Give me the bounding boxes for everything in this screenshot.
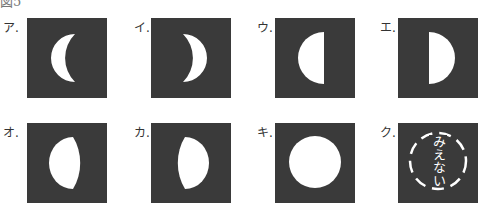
crescent-moon-left-icon (27, 18, 107, 98)
figure-title: 図5 (0, 0, 21, 10)
gibbous-moon-left-icon (27, 123, 107, 203)
moon-box (275, 123, 355, 203)
option-label: ア. (3, 18, 19, 35)
half-moon-left-icon (275, 18, 355, 98)
half-moon-right-icon (398, 18, 478, 98)
option-label: オ. (3, 123, 19, 140)
moon-box (275, 18, 355, 98)
moon-box (151, 18, 231, 98)
moon-box: みえない (398, 123, 478, 203)
full-moon-icon (275, 123, 355, 203)
option-label: ク. (380, 123, 396, 140)
moon-box (27, 18, 107, 98)
moon-box (27, 123, 107, 203)
option-label: イ. (134, 18, 150, 35)
option-label: ウ. (257, 18, 273, 35)
option-label: キ. (257, 123, 273, 140)
moon-box (398, 18, 478, 98)
moon-box (151, 123, 231, 203)
crescent-moon-right-icon (151, 18, 231, 98)
gibbous-moon-right-icon (151, 123, 231, 203)
invisible-text: みえない (429, 135, 447, 187)
option-label: エ. (380, 18, 396, 35)
option-label: カ. (134, 123, 150, 140)
